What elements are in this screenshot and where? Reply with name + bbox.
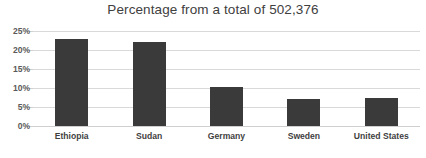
bars-layer: EthiopiaSudanGermanySwedenUnited States xyxy=(0,0,426,158)
bar xyxy=(287,99,320,126)
bar-chart-figure: Percentage from a total of 502,376 25%20… xyxy=(0,0,426,158)
x-axis-category-label: Sudan xyxy=(136,131,162,141)
bar xyxy=(365,98,398,126)
bar xyxy=(210,87,243,126)
bar xyxy=(55,39,88,126)
x-axis-category-label: Ethiopia xyxy=(55,131,89,141)
x-axis-category-label: Sweden xyxy=(288,131,320,141)
x-axis-category-label: Germany xyxy=(208,131,245,141)
bar xyxy=(133,42,166,126)
x-axis-category-label: United States xyxy=(354,131,409,141)
